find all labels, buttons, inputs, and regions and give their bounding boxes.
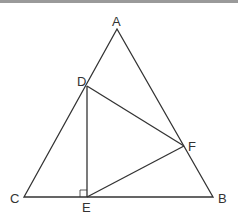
segment-ef bbox=[87, 146, 184, 197]
triangle-abc bbox=[24, 29, 213, 197]
label-f: F bbox=[188, 139, 196, 154]
label-b: B bbox=[218, 191, 227, 206]
label-d: D bbox=[77, 74, 86, 89]
label-e: E bbox=[82, 200, 91, 215]
label-a: A bbox=[112, 14, 121, 29]
label-c: C bbox=[10, 191, 19, 206]
geometry-diagram: A D F C E B bbox=[0, 0, 238, 219]
segment-fd bbox=[87, 86, 184, 146]
right-angle-marker bbox=[80, 190, 87, 197]
